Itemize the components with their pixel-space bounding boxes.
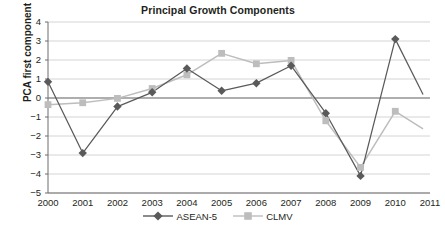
y-tick-label: 3 [17,36,41,46]
data-point-clmv [322,117,329,124]
y-tick-label: −2 [17,131,41,141]
data-point-asean5 [252,79,260,87]
data-point-asean5 [356,172,364,180]
legend-label: CLMV [266,211,292,222]
chart-legend: ASEAN-5CLMV [0,210,436,222]
y-tick-label: 2 [17,55,41,65]
data-point-clmv [45,101,52,108]
y-tick-label: −3 [17,150,41,160]
x-tick-label: 2011 [410,198,445,208]
data-point-clmv [114,95,121,102]
data-point-clmv [79,99,86,106]
data-point-clmv [218,50,225,57]
data-point-clmv [357,164,364,171]
y-tick-label: −1 [17,112,41,122]
data-point-clmv [253,60,260,67]
square-marker-icon [233,210,263,222]
legend-label: ASEAN-5 [176,211,217,222]
data-point-asean5 [217,87,225,95]
data-point-asean5 [391,35,399,43]
diamond-marker-icon [143,210,173,222]
y-tick-label: 0 [17,93,41,103]
legend-entry-asean-5[interactable]: ASEAN-5 [143,210,217,222]
y-tick-label: 4 [17,17,41,27]
data-point-clmv [392,108,399,115]
legend-entry-clmv[interactable]: CLMV [233,210,292,222]
y-tick-label: −4 [17,169,41,179]
y-tick-label: 1 [17,74,41,84]
